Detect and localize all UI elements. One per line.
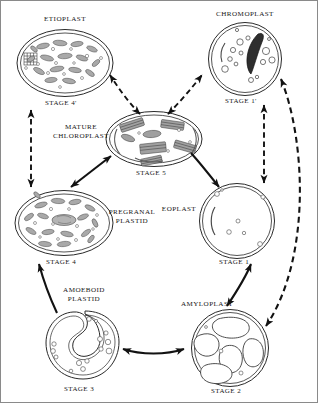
arrow-stage5-eoplast xyxy=(191,153,219,187)
label-mature-chloroplast-stage: STAGE 5 xyxy=(136,169,166,177)
arrow-amoeboid-pregranal xyxy=(39,264,57,313)
diagram-frame: ETIOPLAST STAGE 4' CHROMOPLAST STAGE 1' … xyxy=(0,0,318,403)
organelle-amyloplast xyxy=(192,310,269,387)
organelle-pregranal-plastid xyxy=(15,191,113,256)
label-mature-chloroplast-name: MATURE CHLOROPLAST xyxy=(53,123,109,142)
diagram-canvas xyxy=(1,1,318,403)
organelle-amoeboid-plastid xyxy=(46,311,119,379)
label-eoplast-name: EOPLAST xyxy=(151,205,207,214)
label-chromoplast-stage: STAGE 1' xyxy=(225,97,257,105)
label-amoeboid-plastid-stage: STAGE 3 xyxy=(64,385,94,393)
label-amyloplast-stage: STAGE 2 xyxy=(211,387,241,395)
organelle-chromoplast xyxy=(209,23,282,96)
label-eoplast-stage: STAGE 1 xyxy=(219,258,249,266)
arrow-chromoplast-amyloplast xyxy=(266,79,300,326)
plastid-cycle-diagram: ETIOPLAST STAGE 4' CHROMOPLAST STAGE 1' … xyxy=(1,1,318,403)
label-chromoplast-name: CHROMOPLAST xyxy=(195,10,295,19)
label-etioplast-stage: STAGE 4' xyxy=(45,99,77,107)
label-pregranal-plastid-stage: STAGE 4 xyxy=(46,258,76,266)
label-amoeboid-plastid-name: AMOEBOID PLASTID xyxy=(56,286,112,305)
organelle-eoplast xyxy=(200,184,275,259)
label-etioplast-name: ETIOPLAST xyxy=(15,15,115,24)
arrow-amoeboid-amyloplast xyxy=(123,349,184,354)
organelle-etioplast xyxy=(17,30,113,97)
label-amyloplast-name: AMYLOPLAST xyxy=(172,300,242,309)
arrow-pregranal-stage5 xyxy=(71,156,111,187)
organelle-mature-chloroplast xyxy=(106,112,202,167)
arrow-stage5-etioplast xyxy=(110,75,140,114)
pregranal-nucleoid xyxy=(52,215,76,226)
arrow-stage5-chromoplast xyxy=(168,75,202,114)
